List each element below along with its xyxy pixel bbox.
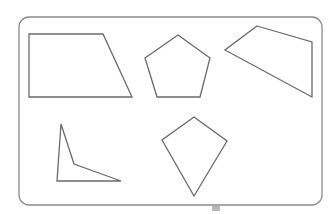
irregular-quadrilateral-shape <box>225 26 312 97</box>
shapes-diagram <box>0 0 335 214</box>
trapezoid-shape <box>29 34 132 97</box>
kite-shape <box>162 117 227 196</box>
scan-mark <box>212 206 220 211</box>
concave-quadrilateral-shape <box>57 124 121 181</box>
pentagon-shape <box>145 35 210 97</box>
rounded-frame <box>19 17 322 205</box>
